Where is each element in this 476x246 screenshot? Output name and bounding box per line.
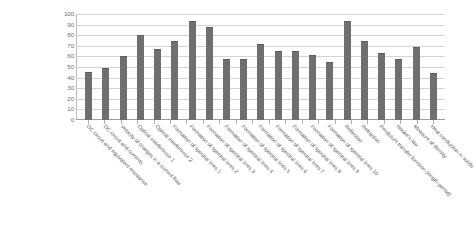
bar-slot	[390, 14, 407, 120]
y-axis-tick-labels: 1009080706050403020100	[52, 14, 74, 120]
y-tick-label: 100	[64, 11, 74, 17]
bar-slot	[252, 14, 269, 120]
bar	[361, 41, 368, 121]
bar	[326, 62, 333, 120]
bar-series	[76, 14, 445, 120]
y-tick-label: 80	[67, 32, 74, 38]
bar-slot	[97, 14, 114, 120]
bar	[85, 72, 92, 120]
bar-slot	[270, 14, 287, 120]
bar	[206, 27, 213, 120]
bar	[292, 51, 299, 120]
bar-slot	[166, 14, 183, 120]
bar	[378, 53, 385, 120]
bar-slot	[356, 14, 373, 120]
plot-area	[76, 14, 445, 120]
y-tick-label: 60	[67, 53, 74, 59]
bar	[275, 51, 282, 120]
y-tick-label: 40	[67, 74, 74, 80]
y-tick-label: 50	[67, 64, 74, 70]
bar	[102, 68, 109, 120]
x-axis-category-labels: DC circuit and equivalent resistanceDC c…	[76, 124, 445, 246]
bar-slot	[132, 14, 149, 120]
bar	[430, 73, 437, 120]
bar-slot	[201, 14, 218, 120]
bar	[171, 41, 178, 121]
bar-slot	[149, 14, 166, 120]
bar	[413, 47, 420, 120]
bar-slot	[235, 14, 252, 120]
bar-slot	[287, 14, 304, 120]
bar-slot	[321, 14, 338, 120]
bar	[137, 35, 144, 120]
y-tick-label: 20	[67, 96, 74, 102]
bar	[309, 55, 316, 120]
bar-slot	[407, 14, 424, 120]
bar	[120, 56, 127, 120]
bar-slot	[339, 14, 356, 120]
y-tick-label: 90	[67, 21, 74, 27]
y-tick-label: 30	[67, 85, 74, 91]
bar	[344, 21, 351, 120]
bar	[395, 59, 402, 120]
y-tick-label: 10	[67, 106, 74, 112]
bar-slot	[373, 14, 390, 120]
bar	[154, 49, 161, 120]
bar	[223, 59, 230, 120]
bar	[257, 44, 264, 120]
bar-slot	[218, 14, 235, 120]
y-tick-label: 70	[67, 43, 74, 49]
bar-slot	[183, 14, 200, 120]
bar	[189, 21, 196, 120]
bar-slot	[425, 14, 442, 120]
bar-slot	[304, 14, 321, 120]
bar-slot	[114, 14, 131, 120]
bar	[240, 59, 247, 120]
bar-slot	[80, 14, 97, 120]
y-tick-label: 0	[71, 117, 74, 123]
